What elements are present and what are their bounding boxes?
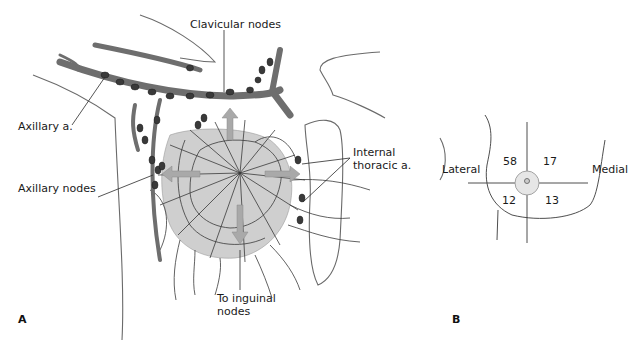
quadrant-lower-inner: 13	[545, 194, 559, 207]
illustration	[0, 0, 640, 345]
label-internal-thoracic-artery: Internal thoracic a.	[353, 146, 411, 172]
quadrant-upper-inner: 17	[543, 155, 557, 168]
quadrant-diagram	[468, 115, 605, 243]
panel-letter-b: B	[452, 313, 460, 326]
quadrant-upper-outer: 58	[503, 155, 517, 168]
label-to-inguinal-nodes: To inguinal nodes	[217, 292, 276, 318]
panel-letter-a: A	[18, 313, 27, 326]
lymphatic-drainage-figure: Clavicular nodes Axillary a. Axillary no…	[0, 0, 640, 345]
label-axillary-nodes: Axillary nodes	[18, 182, 96, 195]
quadrant-lower-outer: 12	[502, 194, 516, 207]
label-clavicular-nodes: Clavicular nodes	[190, 18, 281, 31]
label-lateral: Lateral	[442, 163, 480, 176]
label-axillary-artery: Axillary a.	[18, 120, 73, 133]
label-medial: Medial	[592, 163, 628, 176]
